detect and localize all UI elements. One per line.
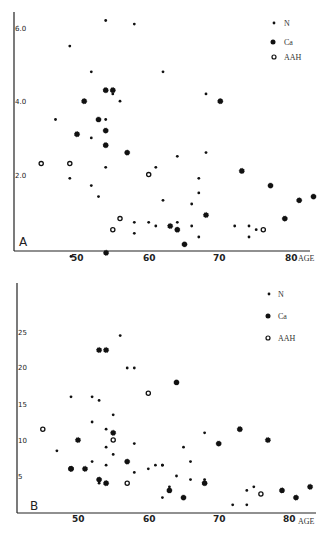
data-point-n (190, 203, 193, 206)
data-point-aah (259, 492, 263, 496)
data-point-n (97, 195, 100, 198)
data-point-ca (174, 380, 179, 385)
data-point-ca (104, 250, 109, 255)
legend-ca-label: Ca (278, 312, 287, 321)
data-point-n (98, 399, 101, 402)
data-point-n (91, 395, 94, 398)
data-point-ca (125, 150, 130, 155)
legend-n-marker (273, 22, 276, 25)
data-point-n (133, 442, 136, 445)
data-point-n (231, 503, 234, 506)
data-point-n (133, 221, 136, 224)
data-point-n (91, 460, 94, 463)
legend-n-label: N (278, 290, 284, 299)
data-point-n (147, 221, 150, 224)
a-y-tick-6: 6.0 (15, 25, 26, 33)
panel-a-points (39, 19, 316, 247)
b-y-tick-20: 20 (18, 364, 27, 372)
data-point-n (68, 45, 71, 48)
data-point-n (126, 367, 129, 370)
data-point-aah (41, 427, 45, 431)
data-point-aah (111, 438, 115, 442)
data-point-n (154, 464, 157, 467)
data-point-n (70, 395, 73, 398)
data-point-ca (82, 99, 87, 104)
data-point-n (245, 503, 248, 506)
b-x-tick-60: 60 (143, 514, 156, 524)
data-point-ca (97, 477, 102, 482)
b-y-tick-10: 10 (18, 437, 27, 445)
data-point-n (245, 489, 248, 492)
data-point-ca (202, 481, 207, 486)
data-point-ca (111, 430, 116, 435)
legend-n-label: N (284, 19, 290, 28)
legend-aah-label: AAH (278, 334, 296, 343)
a-x-tick-60: 60 (143, 253, 156, 263)
figure: 50 60 70 80 AGE 6.0 4.0 2.0 A N Ca AAH 5… (0, 0, 328, 535)
data-point-aah (261, 228, 265, 232)
data-point-n (105, 464, 108, 467)
data-point-n (175, 475, 178, 478)
b-y-tick-15: 15 (18, 401, 27, 409)
data-point-n (112, 453, 115, 456)
data-point-n (205, 151, 208, 154)
data-point-aah (125, 481, 129, 485)
data-point-n (104, 118, 107, 121)
data-point-ca (167, 488, 172, 493)
data-point-n (133, 367, 136, 370)
data-point-n (252, 485, 255, 488)
legend-aah-marker (266, 336, 270, 340)
data-point-ca (104, 481, 109, 486)
panel-a: 50 60 70 80 AGE 6.0 4.0 2.0 A N Ca AAH (14, 12, 316, 263)
data-point-n (104, 19, 107, 22)
data-point-n (162, 199, 165, 202)
data-point-ca (168, 223, 173, 228)
data-point-aah (111, 228, 115, 232)
data-point-aah (147, 173, 151, 177)
data-point-ca (175, 227, 180, 232)
a-y-tick-4: 4.0 (15, 98, 26, 106)
data-point-n (112, 413, 115, 416)
data-point-ca (279, 488, 284, 493)
data-point-n (189, 478, 192, 481)
data-point-n (105, 428, 108, 431)
data-point-n (182, 446, 185, 449)
data-point-ca (237, 427, 242, 432)
data-point-ca (203, 212, 208, 217)
data-point-n (197, 177, 200, 180)
data-point-n (189, 460, 192, 463)
panel-a-legend: N Ca AAH (271, 19, 302, 62)
data-point-n (197, 192, 200, 195)
data-point-n (176, 155, 179, 158)
data-point-aah (39, 162, 43, 166)
data-point-ca (216, 441, 221, 446)
data-point-n (197, 236, 200, 239)
data-point-n (68, 177, 71, 180)
panel-b-label: B (30, 499, 38, 513)
data-point-n (205, 93, 208, 96)
data-point-n (162, 70, 165, 73)
data-point-n (176, 221, 179, 224)
a-x-tick-70: 70 (213, 253, 226, 263)
data-point-ca (104, 347, 109, 352)
data-point-ca (97, 347, 102, 352)
data-point-n (119, 100, 122, 103)
legend-ca-marker (271, 40, 276, 45)
data-point-ca (181, 495, 186, 500)
data-point-n (90, 70, 93, 73)
legend-n-marker (268, 293, 271, 296)
b-x-tick-80: 80 (283, 514, 296, 524)
data-point-ca (297, 198, 302, 203)
data-point-ca (311, 194, 316, 199)
a-y-tick-2: 2.0 (15, 172, 26, 180)
data-point-ca (218, 99, 223, 104)
data-point-n (91, 421, 94, 424)
data-point-n (154, 225, 157, 228)
a-x-axis-label: AGE (298, 254, 315, 263)
data-point-n (70, 255, 73, 258)
data-point-n (133, 232, 136, 235)
data-point-n (190, 225, 193, 228)
data-point-n (133, 23, 136, 26)
data-point-n (147, 467, 150, 470)
data-point-ca (308, 484, 313, 489)
